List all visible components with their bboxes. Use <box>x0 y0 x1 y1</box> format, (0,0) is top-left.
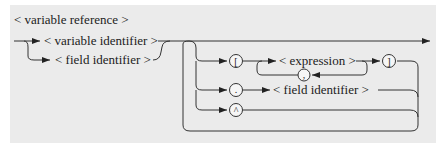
syntax-diagram: < variable reference > < variable identi… <box>0 0 448 148</box>
period-branch <box>196 61 227 90</box>
svg-text:[: [ <box>234 56 237 67</box>
svg-text:^: ^ <box>234 105 239 116</box>
caret-exit-line <box>243 110 418 117</box>
svg-text:.: . <box>235 84 238 95</box>
diagram-title: < variable reference > <box>14 12 129 27</box>
bracket-branch <box>183 41 227 61</box>
field-identifier-label: < field identifier > <box>55 52 151 67</box>
caret-branch <box>196 90 227 110</box>
expression-label: < expression > <box>279 53 356 68</box>
field-exit-line <box>378 90 418 97</box>
variable-identifier-label: < variable identifier > <box>44 33 158 48</box>
svg-text:,: , <box>303 69 306 80</box>
field-identifier-selector-label: < field identifier > <box>273 82 369 97</box>
svg-text:]: ] <box>387 56 390 67</box>
